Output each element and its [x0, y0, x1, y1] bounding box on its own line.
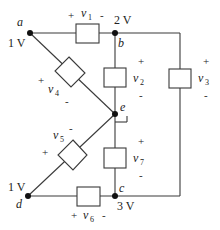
- v3-sub: 3: [205, 78, 209, 87]
- element-v1: [76, 24, 99, 43]
- v7-minus: -: [139, 169, 143, 181]
- node-b-label: b: [118, 36, 124, 50]
- node-a-label: a: [17, 15, 23, 29]
- node-a: [27, 30, 33, 36]
- v3-plus: +: [203, 55, 209, 67]
- node-d-label: d: [16, 197, 23, 211]
- element-v3: [169, 69, 191, 88]
- node-c-label: c: [119, 181, 125, 195]
- v2-name: v: [133, 71, 139, 85]
- v4-plus: +: [38, 74, 44, 86]
- v2-sub: 2: [140, 78, 144, 87]
- wires: [28, 33, 180, 196]
- v7-sub: 7: [140, 158, 144, 167]
- v2-plus: +: [138, 55, 144, 67]
- v6-name: v: [83, 208, 89, 222]
- v7-plus: +: [138, 135, 144, 147]
- v6-plus: +: [71, 209, 77, 221]
- v6-minus: -: [102, 209, 106, 221]
- v2-minus: -: [139, 89, 143, 101]
- node-d: [25, 193, 31, 199]
- node-d-voltage: 1 V: [8, 180, 26, 194]
- v4-sub: 4: [55, 89, 59, 98]
- v4-name: v: [48, 82, 54, 96]
- node-e-label: e: [120, 100, 126, 114]
- element-v6: [77, 187, 100, 206]
- v1-name: v: [81, 6, 87, 20]
- v5-sub: 5: [60, 135, 64, 144]
- v3-minus: -: [204, 89, 208, 101]
- v1-sub: 1: [88, 13, 92, 22]
- node-b-voltage: 2 V: [114, 13, 132, 27]
- v7-name: v: [133, 151, 139, 165]
- node-c-voltage: 3 V: [117, 199, 135, 213]
- v3-name: v: [198, 71, 204, 85]
- v1-plus: +: [68, 9, 74, 21]
- v6-sub: 6: [90, 215, 94, 224]
- node-e: [112, 111, 118, 117]
- ground-icon: [115, 116, 127, 122]
- element-v7: [104, 148, 126, 168]
- v4-minus: -: [65, 95, 69, 107]
- v5-name: v: [53, 128, 59, 142]
- node-a-voltage: 1 V: [8, 36, 26, 50]
- v1-minus: -: [100, 9, 104, 21]
- v5-minus: -: [69, 122, 73, 134]
- element-v2: [104, 68, 126, 87]
- v5-plus: +: [42, 146, 48, 158]
- circuit-diagram: a 1 V 2 V b e c 3 V 1 V d + v 1 - + v 2 …: [0, 0, 220, 230]
